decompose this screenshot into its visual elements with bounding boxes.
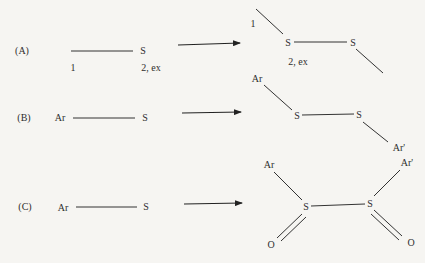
reaction-arrow-b (182, 112, 241, 113)
annotation-2-ex: 2, ex (288, 57, 307, 67)
bond-c-ss (311, 204, 365, 206)
reaction-arrow-c (184, 203, 242, 204)
atom-ar: Ar (252, 74, 263, 84)
atom-o: O (407, 238, 414, 248)
atom-s: S (294, 111, 300, 121)
reaction-arrow-a (178, 43, 240, 45)
atom-o: O (267, 240, 274, 250)
annotation-1: 1 (251, 19, 256, 29)
bond-c-so-right-2 (371, 214, 399, 240)
annotation-1: 1 (71, 63, 76, 73)
bond-c-so-left-1 (277, 214, 302, 238)
bond-c-ar-s (274, 172, 302, 200)
bond-a-1 (256, 9, 283, 34)
atom-s: S (143, 202, 149, 212)
atom-ar: Ar (55, 113, 66, 123)
atom-s: S (142, 113, 148, 123)
atom-ar-prime: Ar' (401, 158, 413, 168)
bond-c-so-right-1 (374, 210, 402, 236)
row-label-a: (A) (15, 46, 29, 56)
annotation-2-ex: 2, ex (141, 63, 160, 73)
atom-ar: Ar (264, 160, 275, 170)
atom-s: S (140, 46, 146, 56)
bond-b-ar-s (264, 85, 292, 110)
atom-s: S (350, 38, 356, 48)
bond-c-so-left-2 (281, 217, 306, 241)
bond-a-2 (356, 49, 383, 73)
bond-drawing (0, 0, 425, 263)
bond-b-ss (302, 114, 354, 115)
atom-s: S (367, 199, 373, 209)
atom-s: S (356, 110, 362, 120)
row-label-b: (B) (17, 113, 30, 123)
bond-c-s-ar2 (374, 170, 400, 196)
row-label-c: (C) (18, 202, 31, 212)
atom-ar: Ar (58, 203, 69, 213)
atom-s: S (303, 202, 309, 212)
reaction-scheme: (A) (B) (C) S 1 2, ex 1 S S 2, ex Ar S A… (0, 0, 425, 263)
atom-ar-prime: Ar' (393, 143, 405, 153)
atom-s: S (285, 38, 291, 48)
bond-b-s-ar2 (363, 122, 388, 142)
